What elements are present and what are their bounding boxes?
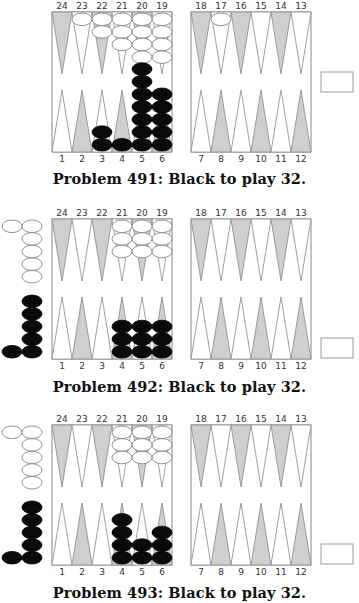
white-checker	[132, 439, 152, 452]
black-checker	[132, 539, 152, 552]
white-off-checker	[22, 426, 42, 439]
point-label: 6	[159, 154, 165, 164]
black-checker	[152, 101, 172, 114]
white-checker	[211, 13, 231, 26]
black-checker	[152, 345, 172, 358]
point-label: 9	[238, 154, 244, 164]
white-checker	[152, 38, 172, 51]
point-label: 17	[215, 414, 226, 424]
white-checker	[132, 26, 152, 39]
point-label: 4	[119, 154, 125, 164]
white-off-checker	[22, 233, 42, 246]
white-off-checker	[22, 439, 42, 452]
point-label: 3	[99, 361, 105, 371]
black-checker	[112, 514, 132, 527]
point-label: 21	[116, 208, 127, 218]
white-checker	[152, 439, 172, 452]
white-checker	[132, 13, 152, 26]
board-right-half	[191, 425, 311, 565]
point-label: 1	[59, 567, 65, 577]
black-checker	[152, 551, 172, 564]
point-label: 19	[156, 414, 168, 424]
white-checker	[152, 426, 172, 439]
point-label: 21	[116, 1, 127, 11]
point-label: 4	[119, 567, 125, 577]
white-checker	[112, 38, 132, 51]
white-checker	[152, 451, 172, 464]
point-label: 7	[198, 361, 204, 371]
white-checker	[152, 220, 172, 233]
point-label: 12	[295, 361, 306, 371]
point-label: 13	[295, 208, 306, 218]
point-label: 10	[255, 154, 267, 164]
board-right-half	[191, 219, 311, 359]
black-checker	[132, 75, 152, 88]
point-label: 23	[76, 1, 87, 11]
backgammon-board: 242322212019181716151413123456789101112	[0, 413, 359, 578]
problem-492: 242322212019181716151413123456789101112 …	[0, 207, 359, 407]
white-checker	[152, 26, 172, 39]
point-label: 7	[198, 567, 204, 577]
point-label: 1	[59, 361, 65, 371]
point-label: 8	[218, 567, 224, 577]
black-checker	[132, 88, 152, 101]
black-checker	[92, 126, 112, 139]
black-checker	[152, 526, 172, 539]
black-checker	[132, 101, 152, 114]
black-off-checker	[2, 345, 22, 358]
backgammon-board: 242322212019181716151413123456789101112	[0, 207, 359, 372]
point-label: 1	[59, 154, 65, 164]
point-label: 12	[295, 154, 306, 164]
black-checker	[152, 320, 172, 333]
point-label: 14	[275, 208, 287, 218]
point-label: 18	[195, 414, 207, 424]
point-label: 8	[218, 361, 224, 371]
doubling-cube	[321, 72, 353, 92]
point-label: 19	[156, 1, 168, 11]
white-checker	[132, 220, 152, 233]
point-label: 3	[99, 567, 105, 577]
black-checker	[132, 333, 152, 346]
black-checker	[132, 551, 152, 564]
problem-491: 242322212019181716151413123456789101112 …	[0, 0, 359, 200]
white-checker	[132, 38, 152, 51]
point-label: 22	[96, 1, 107, 11]
black-off-checker	[22, 295, 42, 308]
black-off-checker	[2, 551, 22, 564]
point-label: 6	[159, 361, 165, 371]
point-label: 24	[56, 208, 68, 218]
point-label: 23	[76, 414, 87, 424]
point-label: 17	[215, 208, 226, 218]
white-checker	[112, 13, 132, 26]
white-checker	[112, 220, 132, 233]
point-label: 3	[99, 154, 105, 164]
white-off-checker	[22, 258, 42, 271]
point-label: 11	[275, 361, 286, 371]
point-label: 11	[275, 567, 286, 577]
white-checker	[132, 245, 152, 258]
point-label: 24	[56, 1, 68, 11]
white-off-checker	[2, 220, 22, 233]
white-off-checker	[22, 451, 42, 464]
point-label: 6	[159, 567, 165, 577]
black-off-checker	[22, 320, 42, 333]
black-checker	[112, 345, 132, 358]
black-checker	[132, 138, 152, 151]
point-label: 5	[139, 154, 145, 164]
black-checker	[152, 126, 172, 139]
doubling-cube	[321, 544, 353, 564]
point-label: 8	[218, 154, 224, 164]
point-label: 2	[79, 154, 85, 164]
black-off-checker	[22, 526, 42, 539]
black-off-checker	[22, 539, 42, 552]
point-label: 13	[295, 414, 306, 424]
black-checker	[132, 63, 152, 76]
white-off-checker	[22, 476, 42, 489]
point-label: 15	[255, 1, 266, 11]
black-checker	[112, 333, 132, 346]
point-label: 16	[235, 208, 247, 218]
white-checker	[112, 245, 132, 258]
point-label: 23	[76, 208, 87, 218]
white-checker	[112, 26, 132, 39]
point-label: 12	[295, 567, 306, 577]
